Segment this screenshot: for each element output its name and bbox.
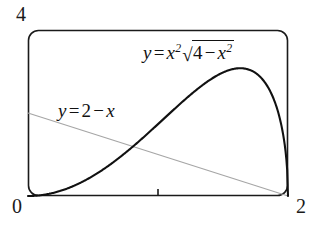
curve-eq-radicand-variable: x (218, 42, 227, 63)
curve-eq-radicand-exponent: 2 (226, 42, 232, 55)
curve-eq-base: x (167, 42, 176, 63)
curve-series-y-equals-x-squared-sqrt (28, 68, 288, 196)
origin-label: 0 (12, 196, 22, 216)
curve-eq-radicand: 4−x2 (192, 40, 234, 64)
line-eq-equals: = (67, 100, 82, 121)
curve-eq-radical: √4−x2 (181, 40, 234, 66)
line-eq-variable: x (106, 100, 115, 121)
line-eq-lhs: y (58, 100, 67, 121)
x-axis-max-label: 2 (296, 196, 306, 216)
function-graph-figure: 4 0 2 y=x2√4−x2 y=2−x (0, 0, 325, 237)
curve-eq-lhs: y (143, 42, 152, 63)
curve-eq-radicand-operator: − (203, 42, 218, 63)
y-axis-max-label: 4 (16, 4, 26, 24)
line-eq-constant: 2 (82, 100, 92, 121)
line-equation-label: y=2−x (58, 100, 115, 122)
line-eq-operator: − (91, 100, 106, 121)
curve-eq-radicand-first: 4 (193, 42, 203, 63)
curve-equation-label: y=x2√4−x2 (143, 40, 234, 66)
plot-canvas (0, 0, 325, 237)
curve-eq-equals: = (152, 42, 167, 63)
